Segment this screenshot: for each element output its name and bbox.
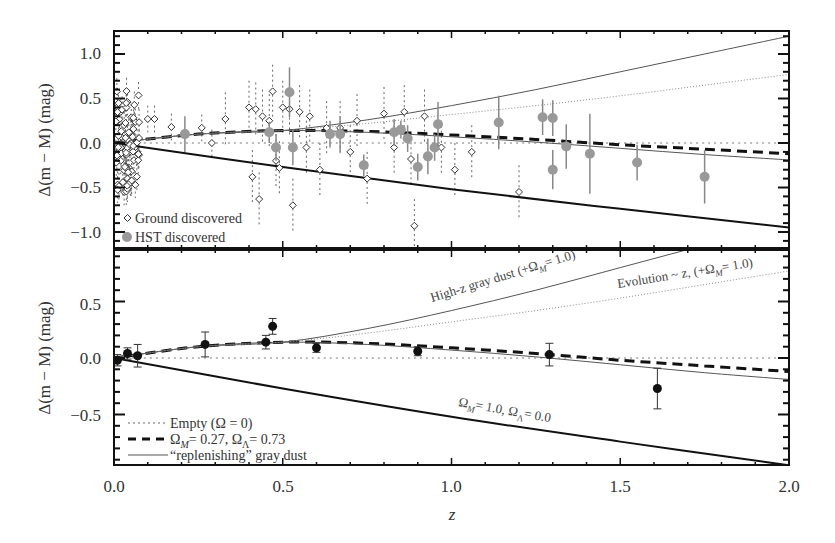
bottom-y-axis-label: Δ(m − M) (mag) (35, 301, 54, 415)
ground-discovered-point (151, 115, 158, 122)
hst-discovered-point (359, 160, 369, 170)
hst-discovered-point (325, 129, 335, 139)
hst-discovered-point (548, 113, 558, 123)
hubble-residual-figure: 1.0 0.5 0.0 −0.5 −1.0 Δ(m − M) (mag) Gro… (0, 0, 835, 543)
ground-discovered-point (408, 156, 415, 163)
ground-discovered-point (259, 113, 266, 120)
binned-data-point (545, 350, 554, 359)
tick-label: 0.0 (80, 349, 101, 368)
ground-discovered-point (421, 113, 428, 120)
top-y-axis-label: Δ(m − M) (mag) (35, 83, 54, 197)
tick-label: 0.5 (80, 295, 101, 314)
ground-discovered-point (364, 175, 371, 182)
ground-discovered-point (246, 104, 253, 111)
hst-discovered-point (271, 142, 281, 152)
model-curve (114, 130, 789, 153)
ground-discovered-point (208, 140, 215, 147)
tick-label: 0.0 (103, 477, 124, 496)
hst-discovered-point (548, 165, 558, 175)
tick-label: 1.0 (80, 44, 101, 63)
hst-discovered-point (335, 129, 345, 139)
hst-discovered-point (538, 112, 548, 122)
tick-label: −1.0 (70, 223, 101, 242)
hst-discovered-point (288, 142, 298, 152)
ground-discovered-point (135, 92, 142, 99)
hst-discovered-point (180, 129, 190, 139)
legend-ground: Ground discovered (135, 211, 242, 226)
legend-hst: HST discovered (135, 230, 225, 245)
tick-label: 0.5 (272, 477, 293, 496)
svg-text:ΩM= 1.0, ΩΛ= 0.0: ΩM= 1.0, ΩΛ= 0.0 (457, 394, 552, 428)
ground-discovered-point (279, 104, 286, 111)
hst-discovered-point (423, 151, 433, 161)
model-curve (114, 342, 789, 372)
annotation-omega-m-1: ΩM= 1.0, ΩΛ= 0.0 (457, 394, 552, 428)
tick-label: 1.5 (609, 477, 630, 496)
ground-discovered-point (198, 124, 205, 131)
bottom-y-tick-labels: 0.5 0.0 −0.5 (70, 295, 101, 425)
ground-discovered-point (168, 123, 175, 130)
binned-data-point (653, 384, 662, 393)
tick-label: −0.5 (70, 406, 101, 425)
hst-discovered-point (585, 149, 595, 159)
binned-data-point (133, 351, 142, 360)
ground-discovered-point (131, 101, 138, 108)
top-legend: Ground discovered HST discovered (122, 211, 242, 245)
binned-data-point (201, 340, 210, 349)
legend-empty: Empty (Ω = 0) (170, 416, 253, 432)
x-tick-labels: 0.0 0.5 1.0 1.5 2.0 (103, 477, 799, 496)
binned-data-point (413, 347, 422, 356)
hst-discovered-point (403, 134, 413, 144)
ground-discovered-point (249, 173, 256, 180)
ground-discovered-point (296, 108, 303, 115)
hst-discovered-point (264, 127, 274, 137)
binned-data-point (312, 343, 321, 352)
ground-discovered-point (306, 113, 313, 120)
bottom-panel: 0.5 0.0 −0.5 Δ(m − M) (mag) High-z gray … (35, 222, 789, 465)
binned-data-point (261, 338, 270, 347)
x-axis-label: z (448, 505, 456, 524)
ground-discovered-point (468, 148, 475, 155)
ground-discovered-point (269, 88, 276, 95)
ground-discovered-point (381, 110, 388, 117)
hst-discovered-point (561, 142, 571, 152)
ground-discovered-point (516, 188, 523, 195)
filled-circle-icon (122, 232, 132, 242)
ground-discovered-point (451, 166, 458, 173)
ground-discovered-point (123, 88, 130, 95)
binned-data-point (123, 349, 132, 358)
tick-label: 2.0 (778, 477, 799, 496)
open-diamond-icon (124, 215, 131, 222)
hst-discovered-point (396, 125, 406, 135)
ground-discovered-point (347, 148, 354, 155)
bottom-legend: Empty (Ω = 0) ΩM= 0.27, ΩΛ= 0.73 “replen… (128, 416, 307, 463)
annotation-evolution: Evolution ~ z, (+ΩM= 1.0) (616, 255, 754, 294)
binned-data-point (268, 322, 277, 331)
ground-discovered-point (222, 115, 229, 122)
hst-discovered-point (285, 87, 295, 97)
hst-discovered-point (632, 158, 642, 168)
tick-label: 0.5 (80, 89, 101, 108)
svg-text:Evolution ~ z, (+ΩM= 1.0): Evolution ~ z, (+ΩM= 1.0) (616, 255, 754, 294)
ground-discovered-point (144, 115, 151, 122)
top-panel: 1.0 0.5 0.0 −0.5 −1.0 Δ(m − M) (mag) Gro… (35, 31, 789, 252)
hst-discovered-point (700, 172, 710, 182)
tick-label: −0.5 (70, 178, 101, 197)
ground-discovered-point (303, 144, 310, 151)
top-y-tick-labels: 1.0 0.5 0.0 −0.5 −1.0 (70, 44, 101, 242)
tick-label: 1.0 (440, 477, 461, 496)
model-curve (114, 36, 789, 143)
hst-discovered-point (494, 118, 504, 128)
ground-discovered-point (256, 196, 263, 203)
hst-discovered-point (433, 119, 443, 129)
ground-discovered-point (354, 117, 361, 124)
legend-dust: “replenishing” gray dust (170, 448, 307, 463)
ground-discovered-point (289, 202, 296, 209)
tick-label: 0.0 (80, 134, 101, 153)
hst-discovered-point (413, 162, 423, 172)
ground-discovered-point (411, 222, 418, 229)
ground-discovered-point (252, 106, 259, 113)
